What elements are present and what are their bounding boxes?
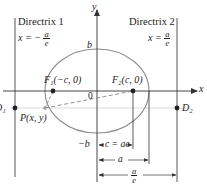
directrix1-title: Directrix 1	[18, 17, 64, 28]
x-axis-label: x	[199, 84, 203, 94]
focus-f1-label: F₁(−c, 0)	[44, 75, 81, 85]
directrix1-fraction: ae	[43, 30, 49, 47]
dim-a-over-e-label: ae	[131, 166, 137, 184]
directrix2-eq-lhs: x =	[148, 32, 162, 43]
directrix1-denominator: e	[43, 39, 49, 47]
vertex-b-label: b	[87, 40, 92, 50]
focus-f2-point	[131, 89, 136, 94]
focus-f1-point	[51, 89, 56, 94]
directrix2-equation: x = ae	[148, 30, 170, 47]
point-d2-label: D₂	[182, 103, 193, 113]
diagram-canvas	[0, 0, 207, 187]
point-d2	[175, 106, 180, 111]
point-p-label: P(x, y)	[20, 113, 47, 123]
y-axis-label: y	[92, 2, 96, 12]
directrix1-eq-lhs: x = −	[18, 32, 41, 43]
point-p	[43, 106, 47, 110]
vertex-neg-b-label: −b	[78, 139, 90, 149]
dim-a-over-e-denominator: e	[131, 176, 137, 184]
directrix2-fraction: ae	[164, 30, 170, 47]
origin-label: 0	[88, 92, 93, 102]
directrix2-denominator: e	[164, 39, 170, 47]
directrix1-equation: x = − ae	[18, 30, 50, 47]
dim-c-label: c = ae	[105, 140, 129, 150]
dim-a-label: a	[118, 155, 123, 165]
dim-a-over-e-fraction: ae	[131, 167, 137, 184]
directrix2-title: Directrix 2	[129, 17, 175, 28]
focus-f2-label: F₂(c, 0)	[112, 75, 143, 85]
ellipse-directrix-diagram: y x 0 Directrix 1 x = − ae Directrix 2 x…	[0, 0, 207, 187]
point-d1	[13, 106, 18, 111]
point-d1-label: D₁	[0, 103, 6, 113]
